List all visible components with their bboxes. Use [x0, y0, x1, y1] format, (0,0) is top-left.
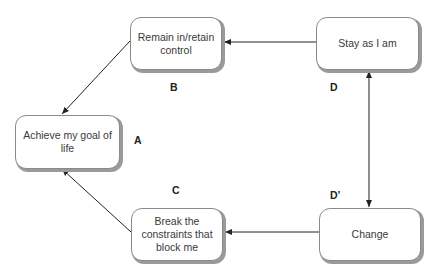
arrow-remain-to-achieve — [62, 41, 130, 114]
label-d-prime: D’ — [330, 189, 341, 201]
node-stay-as-i-am: Stay as I am — [316, 17, 419, 70]
arrow-break-to-achieve — [62, 169, 131, 232]
node-remain-control: Remain in/retain control — [130, 17, 222, 70]
node-change-text: Change — [352, 228, 389, 241]
node-break-constraints-text: Break the constraints that block me — [138, 215, 216, 254]
node-achieve-goal: Achieve my goal of life — [15, 115, 120, 169]
node-achieve-goal-text: Achieve my goal of life — [22, 129, 113, 155]
node-remain-control-text: Remain in/retain control — [137, 31, 215, 57]
label-d: D — [330, 81, 338, 93]
node-change: Change — [319, 208, 421, 261]
node-stay-as-i-am-text: Stay as I am — [338, 37, 396, 50]
label-a: A — [134, 134, 142, 146]
label-c: C — [172, 184, 180, 196]
label-b: B — [170, 81, 178, 93]
node-break-constraints: Break the constraints that block me — [131, 208, 223, 261]
diagram-canvas: Achieve my goal of life Remain in/retain… — [0, 0, 439, 276]
